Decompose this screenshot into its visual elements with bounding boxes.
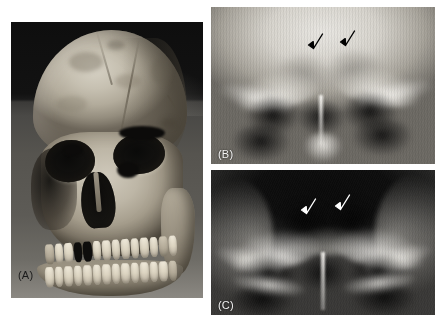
tooth <box>54 243 64 264</box>
figure-panel-group: (A) (B) <box>0 0 444 322</box>
panel-a-label: (A) <box>18 270 33 281</box>
arrow-b-right <box>340 30 357 49</box>
bone-mottling <box>161 118 177 128</box>
arrow-b-left <box>308 33 325 52</box>
tooth <box>92 265 102 285</box>
tooth <box>120 263 130 283</box>
tooth <box>45 267 55 287</box>
tooth <box>54 267 64 287</box>
tooth <box>73 242 83 263</box>
bone-mottling <box>115 74 141 88</box>
arrow-c-right <box>335 194 352 213</box>
tooth <box>73 266 83 286</box>
bone-mottling <box>57 96 87 112</box>
tooth <box>101 264 111 284</box>
tooth <box>130 238 140 259</box>
skull-orbital-floor-defect <box>117 162 139 178</box>
bone-mottling <box>69 52 103 72</box>
tooth <box>168 235 178 256</box>
tooth <box>139 262 149 282</box>
tooth <box>111 239 121 260</box>
bone-mottling <box>151 58 171 84</box>
panel-c-radiograph: (C) <box>211 170 435 315</box>
tooth <box>44 244 54 265</box>
arrow-c-left <box>301 198 318 217</box>
tooth <box>64 266 74 286</box>
skull-nasal-bone-defect <box>63 144 83 156</box>
panel-b-radiograph: (B) <box>211 7 435 164</box>
bone-mottling <box>107 40 125 50</box>
tooth <box>130 263 140 283</box>
tooth <box>149 262 159 282</box>
tooth <box>139 237 149 258</box>
skull-dentition <box>45 234 177 298</box>
tooth <box>82 241 92 262</box>
tooth <box>111 264 121 284</box>
tooth <box>149 237 159 258</box>
tooth <box>101 240 111 261</box>
scan-raster <box>211 170 435 315</box>
mandibular-dental-arcade <box>45 261 178 288</box>
panel-a-skull-photograph <box>11 22 203 298</box>
tooth <box>158 261 168 281</box>
panel-c-label: (C) <box>218 300 234 311</box>
panel-b-label: (B) <box>218 149 233 160</box>
tooth <box>168 261 178 281</box>
tooth <box>83 265 93 285</box>
maxillary-dental-arcade <box>44 235 177 264</box>
skull-supraorbital-defect <box>119 126 165 140</box>
scan-raster <box>211 7 435 164</box>
tooth <box>63 243 73 264</box>
tooth <box>158 236 168 257</box>
tooth <box>92 241 102 262</box>
tooth <box>120 239 130 260</box>
